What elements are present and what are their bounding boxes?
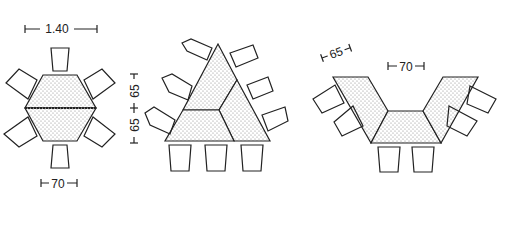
dimension-edge: 70 bbox=[388, 59, 424, 74]
dimension-label: 1.40 bbox=[45, 22, 69, 36]
seating-diagram: 1.40 70 65 65 bbox=[0, 0, 510, 228]
u-shape-layout: 65 70 bbox=[313, 40, 496, 172]
dimension-label: 70 bbox=[399, 60, 413, 74]
chair bbox=[145, 107, 175, 134]
chair bbox=[205, 145, 227, 171]
dimension-label: 65 bbox=[128, 84, 142, 98]
chair bbox=[230, 45, 258, 67]
chair bbox=[262, 107, 288, 131]
chair bbox=[51, 145, 69, 168]
dimension-depth: 65 bbox=[319, 40, 352, 64]
chair bbox=[241, 145, 263, 171]
table-bottom bbox=[25, 108, 96, 141]
chair bbox=[412, 147, 434, 172]
chair bbox=[378, 147, 400, 172]
chair bbox=[182, 39, 212, 60]
dimension-height: 65 65 bbox=[127, 74, 142, 143]
dimension-width: 1.40 bbox=[25, 22, 97, 36]
hexagon-layout: 1.40 70 bbox=[4, 22, 115, 191]
table-top bbox=[25, 75, 96, 108]
dimension-edge: 70 bbox=[41, 176, 77, 191]
dimension-label: 65 bbox=[128, 118, 142, 132]
triangle-layout bbox=[145, 39, 288, 171]
chair bbox=[51, 48, 69, 71]
dimension-label: 70 bbox=[51, 177, 65, 191]
chair bbox=[162, 74, 192, 100]
chair bbox=[169, 145, 191, 171]
chair bbox=[247, 77, 273, 99]
